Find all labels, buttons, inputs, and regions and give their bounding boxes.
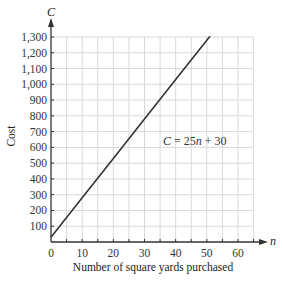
y-axis-arrow-icon xyxy=(48,18,54,27)
x-tick-label: 50 xyxy=(201,247,213,259)
y-tick-label: 800 xyxy=(30,110,48,122)
x-axis-variable: n xyxy=(270,234,276,248)
eq-mid: = 25 xyxy=(171,134,196,148)
x-tick-label: 20 xyxy=(108,247,120,259)
x-tick-labels: 0102030405060 xyxy=(48,247,244,259)
y-tick-label: 500 xyxy=(30,157,48,169)
y-tick-label: 100 xyxy=(30,220,48,232)
y-tick-label: 1,100 xyxy=(21,63,47,76)
equation-annotation: C = 25n + 30 xyxy=(163,134,227,148)
y-tick-label: 1,300 xyxy=(21,31,47,44)
y-axis-title: Cost xyxy=(5,125,17,147)
y-tick-label: 600 xyxy=(30,141,48,153)
x-axis-arrow-icon xyxy=(259,239,268,245)
x-tick-label: 40 xyxy=(170,247,182,259)
x-tick-label: 10 xyxy=(76,247,88,259)
eq-tail: + 30 xyxy=(202,134,227,148)
y-tick-label: 1,000 xyxy=(21,78,47,91)
x-axis-title: Number of square yards purchased xyxy=(73,261,234,274)
y-axis-variable: C xyxy=(47,5,56,19)
y-tick-label: 300 xyxy=(30,189,48,201)
y-tick-labels: 1002003004005006007008009001,0001,1001,2… xyxy=(21,31,47,232)
y-tick-label: 700 xyxy=(30,126,48,138)
x-tick-label: 30 xyxy=(139,247,151,259)
y-tick-label: 900 xyxy=(30,94,48,106)
y-tick-label: 200 xyxy=(30,204,48,216)
y-tick-label: 400 xyxy=(30,173,48,185)
y-tick-label: 1,200 xyxy=(21,47,47,60)
cost-line-chart: 1002003004005006007008009001,0001,1001,2… xyxy=(0,0,283,284)
x-tick-label: 0 xyxy=(48,247,54,259)
x-tick-label: 60 xyxy=(232,247,244,259)
